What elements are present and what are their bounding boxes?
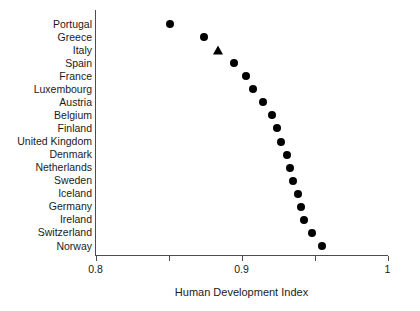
data-point-marker xyxy=(283,151,291,159)
y-axis-label: Denmark xyxy=(0,149,92,160)
data-point-marker xyxy=(273,124,281,132)
data-point-marker xyxy=(268,111,276,119)
y-axis-label: Germany xyxy=(0,201,92,212)
data-point-marker xyxy=(242,72,250,80)
x-axis-tick xyxy=(242,256,243,261)
data-point-marker xyxy=(249,85,257,93)
data-point-marker xyxy=(318,242,326,250)
x-axis-tick xyxy=(315,256,316,261)
x-axis-tick xyxy=(169,256,170,261)
human-development-index-dot-chart: PortugalGreeceItalySpainFranceLuxembourg… xyxy=(0,0,420,311)
x-axis-tick xyxy=(96,256,97,261)
data-point-marker xyxy=(297,203,305,211)
x-axis-tick xyxy=(388,256,389,261)
data-point-marker xyxy=(259,98,267,106)
data-point-marker xyxy=(277,138,285,146)
x-axis-tick-label: 0.9 xyxy=(234,263,249,275)
y-axis-label: Sweden xyxy=(0,175,92,186)
data-point-marker xyxy=(166,20,174,28)
y-axis-label: Norway xyxy=(0,241,92,252)
data-point-marker xyxy=(289,177,297,185)
data-point-marker xyxy=(213,46,223,55)
y-axis-line xyxy=(95,10,96,255)
data-point-marker xyxy=(294,190,302,198)
y-axis-label: Portugal xyxy=(0,19,92,30)
x-axis-title: Human Development Index xyxy=(95,286,388,299)
data-point-marker xyxy=(300,216,308,224)
y-axis-label: Finland xyxy=(0,123,92,134)
y-axis-label: Luxembourg xyxy=(0,84,92,95)
y-axis-label: Netherlands xyxy=(0,162,92,173)
y-axis-label: Spain xyxy=(0,58,92,69)
y-axis-label: France xyxy=(0,71,92,82)
data-point-marker xyxy=(230,59,238,67)
y-axis-label: Iceland xyxy=(0,188,92,199)
y-axis-label: Italy xyxy=(0,45,92,56)
x-axis-tick-label: 0.8 xyxy=(88,263,103,275)
data-point-marker xyxy=(286,164,294,172)
y-axis-label: United Kingdom xyxy=(0,136,92,147)
data-point-marker xyxy=(200,33,208,41)
x-axis-tick-label: 1 xyxy=(385,263,391,275)
y-axis-label: Austria xyxy=(0,97,92,108)
y-axis-category-labels: PortugalGreeceItalySpainFranceLuxembourg… xyxy=(0,0,92,311)
y-axis-label: Belgium xyxy=(0,110,92,121)
data-point-marker xyxy=(308,229,316,237)
y-axis-label: Switzerland xyxy=(0,227,92,238)
y-axis-label: Ireland xyxy=(0,214,92,225)
y-axis-label: Greece xyxy=(0,32,92,43)
